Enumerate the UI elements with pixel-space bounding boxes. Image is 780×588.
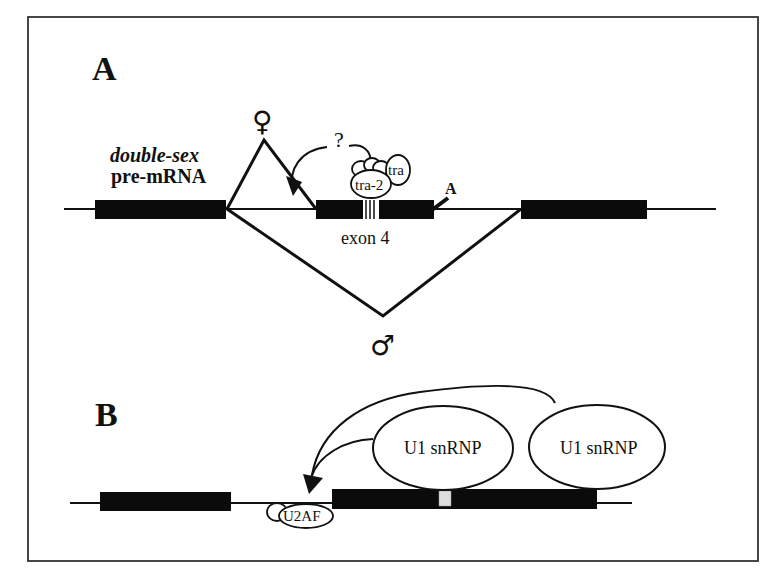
male-splice-path: [227, 209, 521, 316]
tra-label: tra: [388, 162, 404, 178]
splicing-diagram: A double-sex pre-mRNA A ♀ ♂ ?: [0, 0, 780, 588]
arrow-from-left-u1: [311, 439, 373, 478]
u2af-complex: U2AF: [267, 503, 333, 528]
repeat-element: [363, 200, 379, 219]
exon-4-label: exon 4: [341, 228, 390, 248]
arrowhead-icon-b: [303, 474, 323, 494]
exon-upstream: [100, 492, 231, 511]
exon-3: [95, 200, 226, 219]
tra-complex: tra tra-2: [351, 155, 410, 198]
question-mark: ?: [334, 127, 344, 152]
u1-snrnp-left-label: U1 snRNP: [404, 438, 482, 458]
transcript-type: pre-mRNA: [111, 165, 207, 188]
polya-label: A: [445, 180, 457, 197]
splice-site-box: [439, 491, 451, 506]
panel-b: B U1 snRNP U1 snRNP U2AF: [70, 386, 665, 528]
u2af-label: U2AF: [283, 508, 321, 524]
tra-2-label: tra-2: [355, 177, 383, 193]
exon-downstream: [332, 489, 597, 509]
figure-frame: [28, 17, 758, 561]
panel-a: A double-sex pre-mRNA A ♀ ♂ ?: [64, 50, 716, 362]
gene-name: double-sex: [110, 144, 199, 166]
female-splice-path: [227, 140, 316, 209]
u1-snrnp-right-label: U1 snRNP: [560, 438, 638, 458]
panel-b-label: B: [95, 396, 118, 433]
male-symbol: ♂: [370, 329, 395, 362]
panel-a-label: A: [92, 50, 117, 87]
female-symbol: ♀: [252, 105, 273, 138]
exon-5: [521, 200, 647, 219]
